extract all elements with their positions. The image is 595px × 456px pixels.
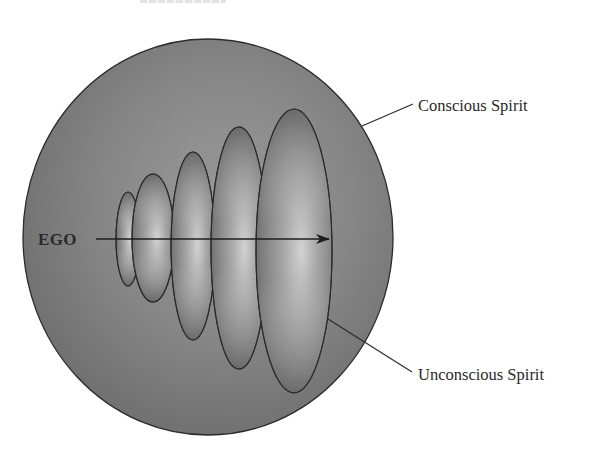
- conscious-spirit-leader-line: [362, 104, 413, 126]
- unconscious-spirit-label: Unconscious Spirit: [418, 365, 544, 384]
- shell-2: [132, 174, 174, 302]
- conscious-spirit-label: Conscious Spirit: [418, 96, 528, 115]
- shell-3: [171, 152, 215, 340]
- shell-5: [256, 109, 332, 393]
- ego-label: EGO: [38, 230, 77, 249]
- ego-spirit-diagram: EGO Conscious Spirit Unconscious Spirit: [0, 0, 595, 456]
